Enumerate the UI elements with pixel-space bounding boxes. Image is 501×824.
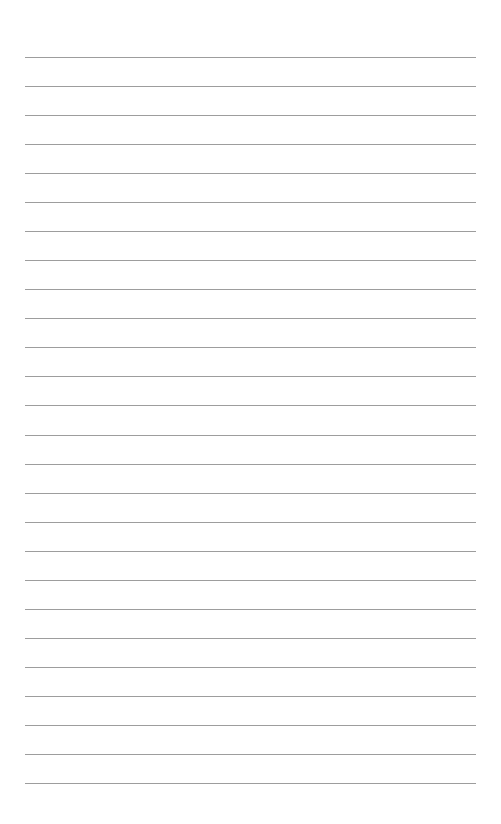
ruled-line: [25, 609, 476, 610]
ruled-line: [25, 435, 476, 436]
ruled-line: [25, 493, 476, 494]
ruled-line: [25, 754, 476, 755]
ruled-line: [25, 522, 476, 523]
ruled-line: [25, 347, 476, 348]
ruled-line: [25, 202, 476, 203]
ruled-line: [25, 376, 476, 377]
ruled-line: [25, 115, 476, 116]
ruled-line: [25, 57, 476, 58]
ruled-line: [25, 783, 476, 784]
ruled-line: [25, 405, 476, 406]
lined-paper-sheet: [0, 0, 501, 824]
ruled-line: [25, 464, 476, 465]
ruled-line: [25, 696, 476, 697]
ruled-line: [25, 86, 476, 87]
ruled-line: [25, 551, 476, 552]
ruled-line: [25, 289, 476, 290]
ruled-line: [25, 667, 476, 668]
ruled-line: [25, 725, 476, 726]
ruled-line: [25, 231, 476, 232]
ruled-line: [25, 173, 476, 174]
ruled-line: [25, 580, 476, 581]
ruled-line: [25, 638, 476, 639]
ruled-line: [25, 144, 476, 145]
ruled-line: [25, 318, 476, 319]
ruled-line: [25, 260, 476, 261]
